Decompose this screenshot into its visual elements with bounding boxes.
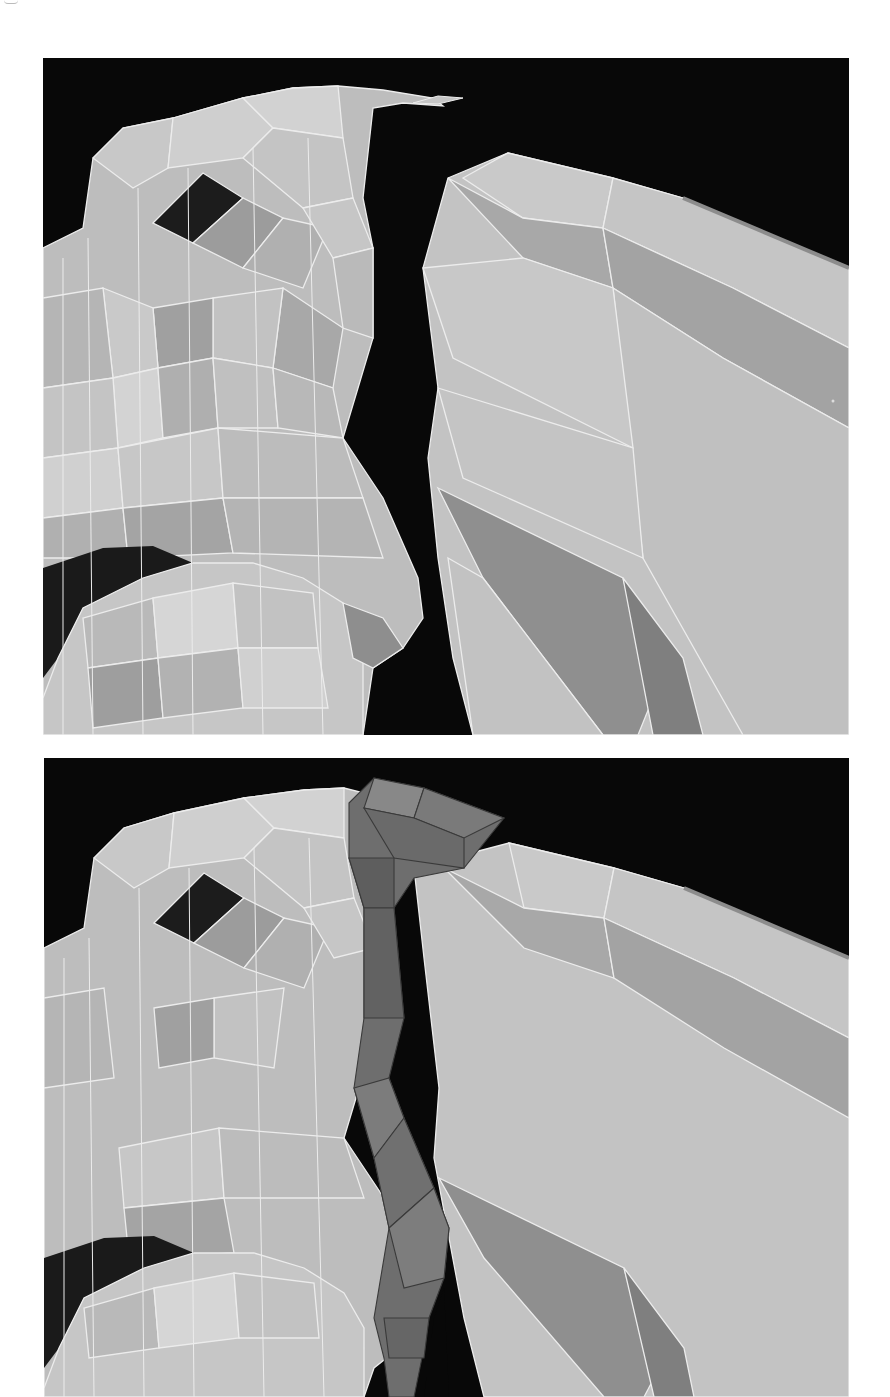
render-panel-bottom: Mesh render after gap fill (44, 758, 849, 1397)
render-panel-top: Mesh render before gap fill (43, 58, 849, 735)
corner-mark (4, 0, 18, 4)
mesh-render-bottom (44, 758, 849, 1397)
stray-dot (832, 400, 835, 403)
mesh-render-top (43, 58, 849, 735)
right-mesh (423, 153, 849, 735)
